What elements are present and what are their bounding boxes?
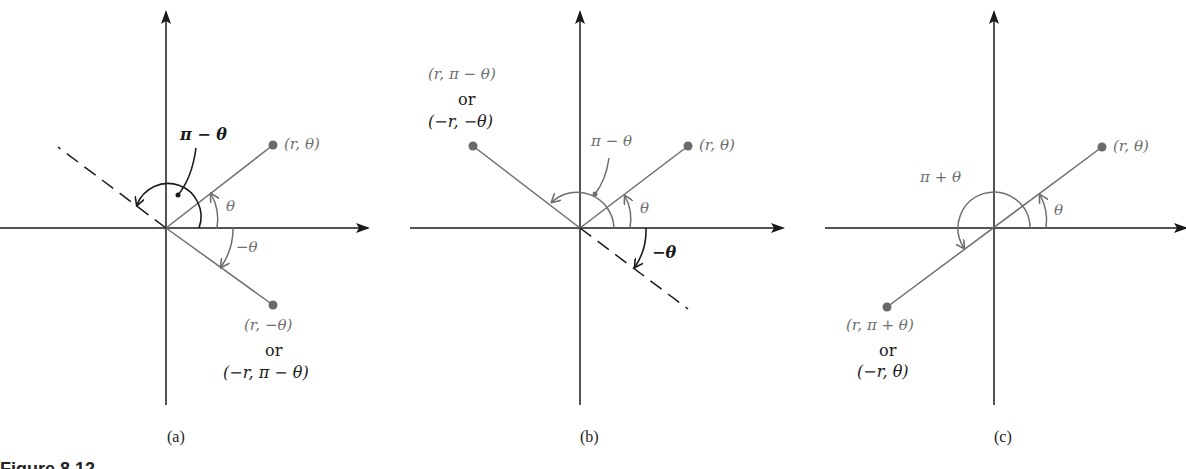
panel-c-caption: (c) xyxy=(994,428,1012,446)
ray-neg-theta-dashed xyxy=(580,228,688,309)
point-r-theta xyxy=(1098,143,1107,152)
ray-pi-minus-theta-dashed xyxy=(58,147,166,228)
label-a-point-r-neg-theta: (r, −θ) xyxy=(244,318,292,333)
label-a-point-neg-r-pi-minus-theta: (−r, π − θ) xyxy=(223,365,309,381)
label-c-point-r-pi-plus-theta: (r, π + θ) xyxy=(846,318,914,333)
point-r-theta xyxy=(269,141,278,150)
ray-pi-minus-theta xyxy=(473,146,580,228)
arc-pi-minus-theta xyxy=(137,183,201,228)
label-c-point-r-theta: (r, θ) xyxy=(1113,139,1149,154)
label-b-point-r-pi-minus-theta: (r, π − θ) xyxy=(428,67,496,82)
point-r-theta xyxy=(684,142,693,151)
arc-theta xyxy=(211,194,218,228)
label-c-theta: θ xyxy=(1054,203,1063,218)
label-c-or: or xyxy=(879,343,896,359)
ray-theta xyxy=(580,146,688,228)
panel-a xyxy=(0,12,368,405)
label-a-pi-minus-theta: π − θ xyxy=(180,127,227,143)
label-b-or: or xyxy=(458,92,475,108)
label-b-theta: θ xyxy=(640,201,649,216)
point-r-neg-theta xyxy=(269,301,278,310)
arc-neg-theta xyxy=(635,228,646,267)
label-b-point-r-theta: (r, θ) xyxy=(699,138,735,153)
leader-pi-minus-theta xyxy=(178,148,196,195)
arc-theta xyxy=(1040,195,1047,228)
diagram-canvas xyxy=(0,0,1186,469)
label-a-or: or xyxy=(265,343,282,359)
label-b-point-neg-r-neg-theta: (−r, −θ) xyxy=(428,114,493,130)
label-c-point-neg-r-theta: (−r, θ) xyxy=(857,364,909,380)
arc-theta xyxy=(625,196,631,228)
label-a-point-r-theta: (r, θ) xyxy=(284,137,320,152)
label-a-neg-theta: −θ xyxy=(236,240,258,255)
point-r-pi-plus-theta xyxy=(883,303,892,312)
label-a-theta: θ xyxy=(226,199,235,214)
label-b-neg-theta: −θ xyxy=(652,245,676,261)
panel-b-caption: (b) xyxy=(580,428,599,446)
leader-pi-minus-theta xyxy=(595,158,609,194)
polar-symmetry-figure: (r, θ) θ −θ π − θ (r, −θ) or (−r, π − θ)… xyxy=(0,0,1186,469)
arc-neg-theta xyxy=(221,228,233,267)
label-c-pi-plus-theta: π + θ xyxy=(920,170,961,185)
point-r-pi-minus-theta xyxy=(469,142,478,151)
label-b-pi-minus-theta: π − θ xyxy=(591,134,632,149)
figure-caption: Figure 8.12 xyxy=(0,458,95,469)
panel-a-caption: (a) xyxy=(167,428,185,446)
